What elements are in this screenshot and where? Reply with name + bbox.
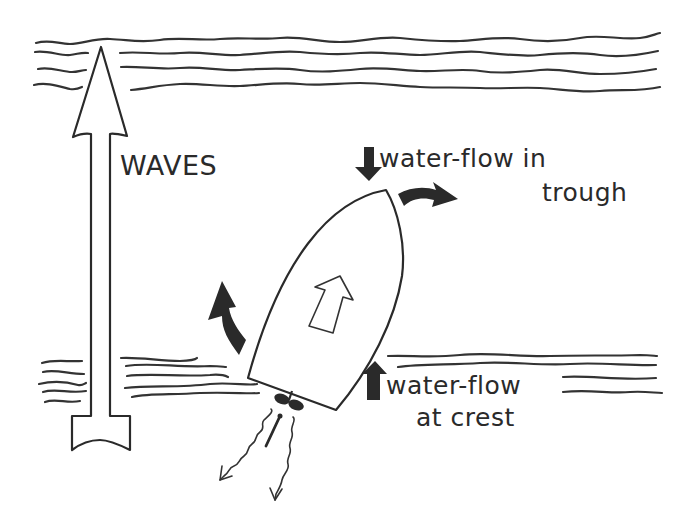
crest-flow-label-line1: water-flow — [386, 371, 521, 400]
wave-direction-arrow — [72, 47, 130, 450]
waves-label: WAVES — [120, 150, 217, 181]
bow-turn-arrow — [398, 182, 458, 207]
top-wave-band — [34, 33, 660, 92]
trough-flow-label-line2: trough — [542, 178, 627, 207]
prop-wash — [220, 409, 294, 500]
wave-boat-diagram — [0, 0, 699, 532]
rudder — [266, 414, 283, 447]
stern-turn-arrow — [208, 281, 246, 355]
crest-flow-label-line2: at crest — [416, 403, 515, 432]
trough-flow-arrow — [355, 147, 382, 181]
trough-flow-label-line1: water-flow in — [379, 144, 546, 173]
